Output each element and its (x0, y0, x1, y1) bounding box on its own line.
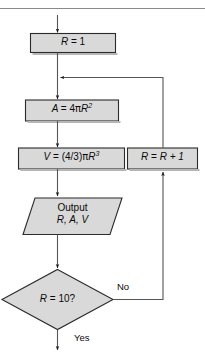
io-node-output (23, 198, 122, 235)
process-node-init (31, 34, 116, 53)
process-node-area (26, 100, 119, 121)
process-node-init-shadow (33, 53, 118, 55)
flowchart-canvas (0, 0, 205, 358)
flowchart-figure: R = 1 A = 4πR2 V = (4/3)πR3 R = R + 1 Ou… (0, 0, 205, 358)
process-node-volume-shadow (21, 169, 127, 171)
process-node-volume (19, 148, 125, 169)
process-node-area-shadow (28, 121, 121, 123)
connector-decision-no (113, 172, 163, 300)
decision-node-check (2, 270, 113, 330)
process-node-increment-shadow (130, 169, 200, 171)
process-node-increment (128, 148, 198, 169)
